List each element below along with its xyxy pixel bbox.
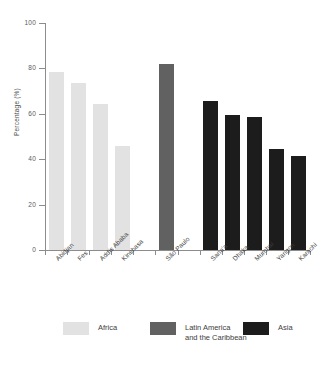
legend-swatch [150,322,176,335]
x-axis-label: Fes [76,249,89,262]
y-axis-tick-label: 60 [8,110,36,117]
legend-label: Asia [278,322,293,333]
plot-area [45,23,310,250]
x-axis-tick [45,251,46,255]
y-axis-tick-label: 0 [8,246,36,253]
x-axis-tick [155,251,156,255]
chart-legend: AfricaLatin America and the CaribbeanAsi… [0,322,324,362]
bar [49,72,64,250]
legend-label: Africa [98,322,117,333]
bar [269,149,284,250]
bar [247,117,262,250]
legend-item: Africa [63,322,117,335]
legend-swatch [63,322,89,335]
y-axis-tick-label: 100 [8,19,36,26]
x-axis-tick [200,251,201,255]
legend-swatch [243,322,269,335]
y-axis-tick-label: 20 [8,201,36,208]
bar [71,83,86,250]
bar-chart: Percentage (%) 020406080100 AbidjanFesAd… [0,0,324,366]
legend-item: Latin America and the Caribbean [150,322,247,342]
x-axis-tick [89,251,90,255]
legend-item: Asia [243,322,293,335]
bar [291,156,306,250]
y-axis-tick-label: 80 [8,64,36,71]
bar [203,101,218,250]
bar [225,115,240,250]
y-axis-tick-label: 40 [8,155,36,162]
legend-label: Latin America and the Caribbean [185,322,247,342]
bar [93,104,108,250]
bar [159,64,174,250]
